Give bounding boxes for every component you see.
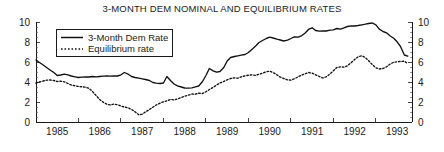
y-axis-tick-label-left: 2 <box>24 97 30 108</box>
y-axis-tick-label-left: 0 <box>24 117 30 128</box>
x-axis-tick-label: 1991 <box>301 126 324 137</box>
y-axis-tick-label-left: 6 <box>24 57 30 68</box>
y-axis-tick-label-left: 4 <box>24 77 30 88</box>
x-axis-tick-label: 1990 <box>259 126 282 137</box>
legend-label-1: 3-Month Dem Rate <box>88 32 168 43</box>
y-axis-tick-label-left: 8 <box>24 37 30 48</box>
x-axis-tick-label: 1987 <box>131 126 154 137</box>
x-axis-tick-label: 1988 <box>174 126 197 137</box>
legend-label-2: Equilibrium rate <box>88 43 154 54</box>
y-axis-labels-right: 0246810 <box>418 17 430 128</box>
y-axis-labels-left: 0246810 <box>19 17 31 128</box>
x-axis-labels: 198519861987198819891990199119921993 <box>46 126 409 137</box>
y-axis-tick-label-right: 8 <box>418 37 424 48</box>
line-chart-plot: 0246810 0246810 198519861987198819891990… <box>0 0 444 152</box>
x-axis-tick-label: 1993 <box>386 126 409 137</box>
x-axis-tick-label: 1986 <box>89 126 112 137</box>
x-axis-tick-label: 1985 <box>46 126 69 137</box>
y-axis-tick-label-right: 0 <box>418 117 424 128</box>
x-axis-tick-label: 1992 <box>344 126 367 137</box>
x-axis-tick-label: 1989 <box>216 126 239 137</box>
chart-figure: 3-MONTH DEM NOMINAL AND EQUILIBRIUM RATE… <box>0 0 444 152</box>
y-axis-tick-label-right: 4 <box>418 77 424 88</box>
chart-legend: 3-Month Dem RateEquilibrium rate <box>56 29 172 56</box>
y-axis-tick-label-right: 6 <box>418 57 424 68</box>
series-line-2 <box>36 56 408 115</box>
y-axis-tick-label-right: 2 <box>418 97 424 108</box>
y-axis-tick-label-right: 10 <box>418 17 430 28</box>
y-axis-tick-label-left: 10 <box>19 17 31 28</box>
